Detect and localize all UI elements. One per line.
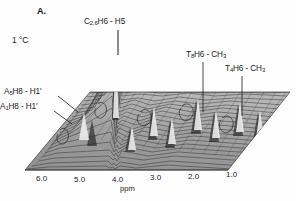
peak-label-t8-post: H6 - CH [194, 50, 223, 59]
peak-label-t4-post: H6 - CH [233, 64, 262, 73]
peak-label-a5-post: H8 - H1' [13, 87, 42, 96]
axis-tick-1: 5.0 [74, 175, 85, 184]
leader-line-a5 [58, 96, 78, 112]
axis-tick-5: 1.0 [226, 170, 237, 179]
axis-tick-4: 2.0 [188, 172, 199, 181]
peak-label-c26-sub: 2,6 [90, 20, 98, 26]
temperature-label: 1 °C [12, 35, 28, 45]
peak-label-c26: C2,6H6 - H5 [84, 18, 125, 26]
peak-label-a1-post: H8 - H1' [9, 102, 38, 111]
axis-tick-0: 6.0 [36, 174, 47, 183]
peak-label-a1: A1H8 - H1' [0, 103, 38, 111]
axis-unit-label: ppm [120, 184, 135, 193]
peak-label-c26-post: H6 - H5 [98, 17, 126, 26]
noesy-surface-plot [0, 0, 296, 201]
panel-label: A. [37, 6, 46, 16]
peak-label-t4: T4H6 - CH3 [225, 65, 265, 73]
peak-label-t8-post-sub: 3 [223, 53, 226, 59]
peak-label-t8: T8H6 - CH3 [186, 51, 226, 59]
axis-tick-3: 3.0 [150, 173, 161, 182]
peak-label-a5: A5H8 - H1' [4, 88, 42, 96]
peak-label-t4-post-sub: 3 [262, 67, 265, 73]
axis-tick-2: 4.0 [112, 175, 123, 184]
nmr-figure-panel: A. 1 °C C2,6H6 - H5 T8H6 - CH3 T4H6 - CH… [0, 0, 296, 201]
